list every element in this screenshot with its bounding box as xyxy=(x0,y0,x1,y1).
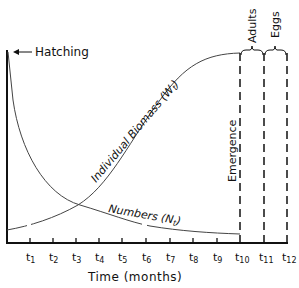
tick-t11: t11 xyxy=(259,251,274,265)
adults-brace xyxy=(241,46,263,55)
tick-t4: t4 xyxy=(95,251,104,265)
emergence-label: Emergence xyxy=(226,119,239,182)
eggs-brace xyxy=(265,46,286,55)
stage-dividers xyxy=(240,53,287,243)
tick-t3: t3 xyxy=(72,251,81,265)
tick-t2: t2 xyxy=(49,251,58,265)
x-axis-label: Time (months) xyxy=(87,270,182,284)
tick-t8: t8 xyxy=(189,251,198,265)
tick-t6: t6 xyxy=(142,251,151,265)
curve-break-1 xyxy=(27,224,31,229)
tick-t5: t5 xyxy=(118,251,127,265)
hatching-arrow-icon xyxy=(13,49,19,55)
tick-t10: t10 xyxy=(235,251,250,265)
life-cycle-diagram: t1 t2 t3 t4 t5 t6 t7 t8 t9 t10 t11 t12 T… xyxy=(0,0,299,288)
adults-label: Adults xyxy=(246,8,259,43)
curve-break-2 xyxy=(142,221,147,226)
biomass-label: Individual Biomass (Wt) xyxy=(88,77,182,185)
eggs-label: Eggs xyxy=(269,11,282,38)
tick-t1: t1 xyxy=(26,251,35,265)
tick-t7: t7 xyxy=(166,251,175,265)
tick-t12: t12 xyxy=(282,251,297,265)
x-tick-labels: t1 t2 t3 t4 t5 t6 t7 t8 t9 t10 t11 t12 xyxy=(26,251,297,265)
hatching-label: Hatching xyxy=(35,45,89,59)
tick-t9: t9 xyxy=(213,251,222,265)
